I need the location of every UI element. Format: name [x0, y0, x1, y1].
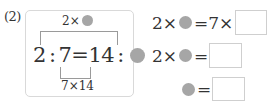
- answer-box-3[interactable]: [212, 77, 245, 101]
- answer-box-1[interactable]: [235, 10, 267, 35]
- equals-sign: =: [71, 43, 88, 67]
- row-middle: =: [197, 79, 211, 99]
- work-row-1: 2× =7×: [152, 10, 267, 35]
- term-a: 2: [33, 43, 46, 67]
- gray-circle-icon: [82, 15, 93, 26]
- top-annotation: 2×: [62, 14, 93, 28]
- colon: :: [49, 43, 56, 67]
- top-bracket-horizontal: [40, 31, 118, 32]
- row-middle: =7×: [194, 13, 233, 33]
- gray-circle-icon: [130, 48, 145, 63]
- row-prefix: 2×: [152, 13, 177, 33]
- gray-circle-icon: [179, 16, 192, 29]
- gray-circle-icon: [182, 83, 195, 96]
- term-c: 14: [88, 43, 114, 67]
- colon: :: [117, 43, 124, 67]
- bottom-annotation: 7×14: [61, 79, 94, 93]
- term-b: 7: [58, 43, 71, 67]
- proportion-equation: 2:7=14:: [33, 43, 145, 67]
- answer-box-2[interactable]: [209, 43, 242, 68]
- gray-circle-icon: [179, 49, 192, 62]
- top-annotation-prefix: 2×: [62, 14, 80, 28]
- row-prefix: 2×: [152, 46, 177, 66]
- row-middle: =: [194, 46, 208, 66]
- work-row-2: 2× =: [152, 43, 242, 68]
- work-row-3: =: [180, 77, 245, 101]
- problem-number-label: (2): [4, 9, 21, 24]
